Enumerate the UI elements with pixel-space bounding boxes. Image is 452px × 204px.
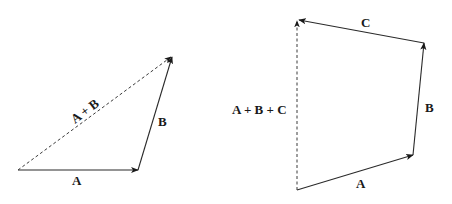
label-c-right: C [361, 15, 370, 30]
label-sum-right: A + B + C [232, 102, 287, 117]
vector-b-right [413, 43, 424, 155]
vector-addition-diagram: A B A + B A B C A + B + C [0, 0, 452, 204]
label-b-left: B [158, 114, 167, 129]
label-sum-left: A + B [68, 95, 102, 126]
left-diagram: A B A + B [18, 57, 172, 188]
label-a-left: A [72, 173, 82, 188]
vector-sum-left [18, 57, 171, 170]
right-diagram: A B C A + B + C [232, 15, 434, 191]
label-a-right: A [356, 176, 366, 191]
vector-b-left [138, 57, 172, 170]
vector-a-right [297, 155, 413, 190]
label-b-right: B [425, 100, 434, 115]
